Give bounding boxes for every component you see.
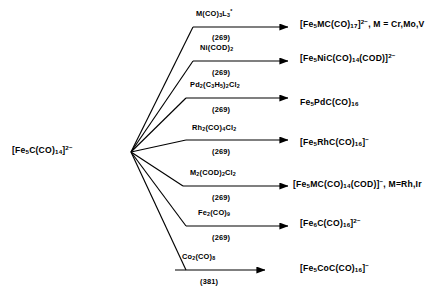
product-label-6: [Fe6C(CO)16]2− bbox=[300, 219, 361, 228]
product-label-3: Fe5PdC(CO)16 bbox=[300, 98, 359, 107]
fan-line-4 bbox=[131, 140, 186, 152]
reference-number-7: (381) bbox=[200, 278, 218, 285]
reagent-label-7: Co2(CO)8 bbox=[182, 253, 215, 260]
reagent-label-5: M2(COD)2Cl2 bbox=[190, 169, 236, 176]
reactant-formula: [Fe5C(CO)14]2− bbox=[12, 146, 73, 155]
product-label-7: [Fe5CoC(CO)16]− bbox=[300, 264, 369, 273]
fan-line-2 bbox=[131, 61, 193, 152]
product-label-5: [Fe5MC(CO)14(COD)]−, M=Rh,Ir bbox=[293, 180, 422, 189]
reagent-label-1: M(CO)3L3* bbox=[196, 10, 232, 17]
reference-number-4: (269) bbox=[212, 148, 230, 155]
fan-connectors bbox=[131, 27, 193, 270]
fan-line-6 bbox=[131, 152, 186, 226]
reference-number-5: (269) bbox=[212, 194, 230, 201]
reference-number-3: (269) bbox=[212, 106, 230, 113]
reaction-scheme-diagram: [Fe5C(CO)14]2− M(CO)3L3* (269) [Fe5MC(CO… bbox=[0, 0, 440, 303]
reagent-label-6: Fe2(CO)9 bbox=[198, 209, 230, 216]
fan-line-1 bbox=[131, 27, 193, 152]
reagent-label-2: Ni(COD)2 bbox=[200, 44, 233, 51]
product-label-2: [Fe5NiC(CO)14(COD)]2− bbox=[300, 54, 396, 63]
product-label-1: [Fe5MC(CO)17]2−, M = Cr,Mo,V bbox=[300, 20, 425, 29]
reagent-label-4: Rh2(CO)4Cl2 bbox=[192, 124, 236, 131]
reagent-label-3: Pd2(C3H5)2Cl2 bbox=[190, 81, 240, 88]
product-label-4: [Fe5RhC(CO)16]− bbox=[300, 138, 369, 147]
reference-number-2: (269) bbox=[212, 69, 230, 76]
fan-line-3 bbox=[131, 98, 186, 152]
reference-number-1: (269) bbox=[212, 34, 230, 41]
reference-number-6: (269) bbox=[212, 234, 230, 241]
